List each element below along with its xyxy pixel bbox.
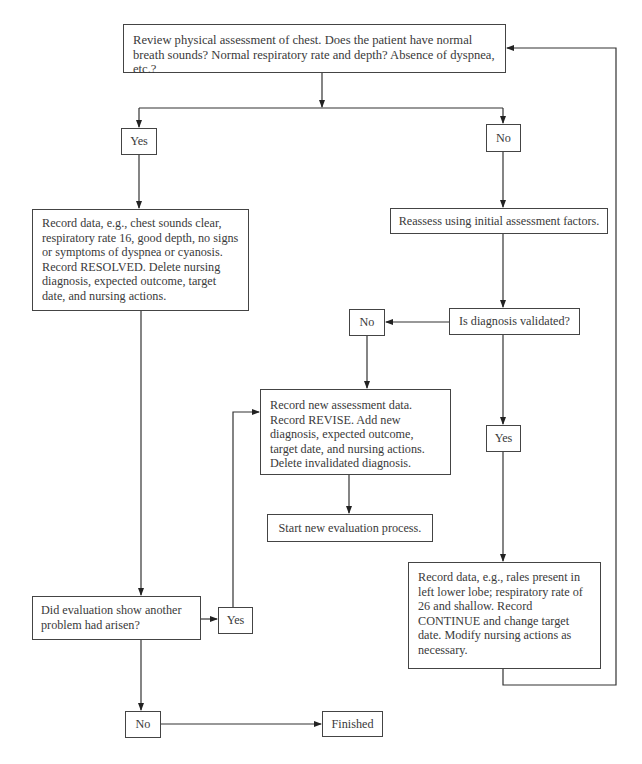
- start-review-box: Review physical assessment of chest. Doe…: [123, 24, 506, 73]
- record-resolved-box: Record data, e.g., chest sounds clear, r…: [32, 209, 249, 311]
- no-box-1: No: [486, 124, 521, 152]
- record-revise-box: Record new assessment data. Record REVIS…: [260, 389, 451, 475]
- diagnosis-validated-question: Is diagnosis validated?: [449, 308, 580, 335]
- no-box-3: No: [125, 711, 161, 738]
- no-box-2: No: [349, 309, 385, 336]
- yes-box-1: Yes: [121, 128, 157, 155]
- yes-box-2: Yes: [486, 425, 521, 452]
- another-problem-question: Did evaluation show another problem had …: [32, 596, 201, 640]
- finished-box: Finished: [322, 711, 383, 737]
- start-new-evaluation-box: Start new evaluation process.: [267, 514, 433, 542]
- record-continue-box: Record data, e.g., rales present in left…: [408, 562, 601, 669]
- reassess-box: Reassess using initial assessment factor…: [390, 208, 608, 234]
- yes-box-3: Yes: [218, 607, 253, 634]
